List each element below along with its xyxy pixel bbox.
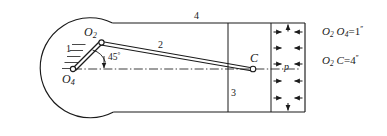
label-link-3: 3 [231,88,236,98]
joint-o4 [70,66,75,71]
label-pressure: p [284,62,289,72]
label-pivot-o2: O2 [84,26,97,40]
link-1-edge-right [76,44,103,71]
cylinder-housing-circle [40,18,113,118]
link-2-edge-bottom [101,45,253,71]
label-pivot-o4: O4 [62,73,75,87]
pressure-arrows-left [274,32,282,98]
label-link-1: 1 [66,44,71,54]
link-1-edge-left [73,41,100,68]
link-2-edge-top [102,42,254,69]
label-point-c: C [250,52,258,64]
pressure-arrows-right [295,32,303,98]
technical-diagram: O2 O4 C 1 2 3 4 45° p O2 O4=1′′ O2 C=4′′ [0,0,387,136]
joint-c [250,66,256,72]
annotation-crank-length: O2 O4=1′′ [322,26,363,39]
label-link-4: 4 [194,11,199,21]
joint-o2 [99,40,104,45]
label-link-2: 2 [158,40,163,50]
label-angle: 45° [108,52,120,63]
annotation-coupler-length: O2 C=4′′ [322,55,358,68]
